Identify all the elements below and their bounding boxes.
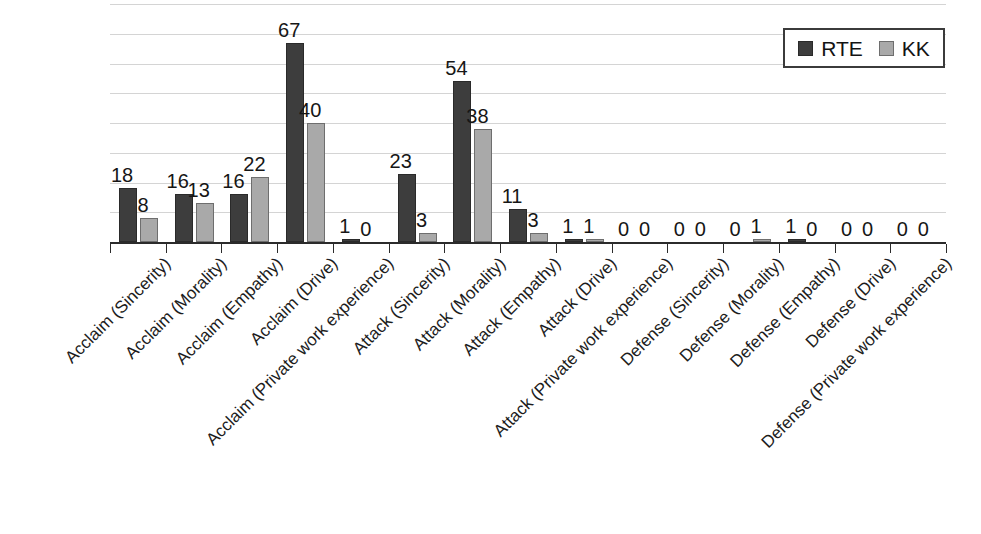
x-axis-tick bbox=[890, 244, 891, 253]
bar-group: 1613 bbox=[166, 4, 222, 242]
bar-group: 188 bbox=[110, 4, 166, 242]
x-axis-tick bbox=[500, 244, 501, 253]
bar-value-label: 1 bbox=[574, 216, 604, 236]
bar-rte bbox=[175, 194, 193, 242]
bar-value-label: 38 bbox=[462, 106, 492, 126]
bar-group: 11 bbox=[556, 4, 612, 242]
bar-kk bbox=[251, 177, 269, 242]
bar-kk bbox=[474, 129, 492, 242]
bar-group: 233 bbox=[389, 4, 445, 242]
bar-group: 113 bbox=[500, 4, 556, 242]
bar-rte bbox=[398, 174, 416, 242]
bar-group: 00 bbox=[612, 4, 668, 242]
bar-kk bbox=[530, 233, 548, 242]
bar-value-label: 23 bbox=[386, 151, 416, 171]
bar-value-label: 22 bbox=[239, 154, 269, 174]
x-axis-tick bbox=[556, 244, 557, 253]
bar-kk bbox=[196, 203, 214, 242]
x-axis-tick bbox=[389, 244, 390, 253]
bar-value-label: 3 bbox=[407, 210, 437, 230]
legend-swatch-kk-icon bbox=[879, 41, 894, 56]
bar-rte bbox=[230, 194, 248, 242]
x-axis-tick bbox=[723, 244, 724, 253]
bar-group: 10 bbox=[333, 4, 389, 242]
bar-group: 5438 bbox=[444, 4, 500, 242]
x-axis-tick bbox=[612, 244, 613, 253]
x-axis-tick bbox=[667, 244, 668, 253]
bar-chart: 1881613162267401023354381131100000110000… bbox=[0, 0, 981, 534]
bar-value-label: 8 bbox=[128, 195, 158, 215]
bar-rte bbox=[286, 43, 304, 242]
bar-value-label: 67 bbox=[274, 20, 304, 40]
x-axis-tick bbox=[835, 244, 836, 253]
chart-legend: RTE KK bbox=[783, 28, 945, 68]
bar-value-label: 11 bbox=[497, 186, 527, 206]
legend-entry-kk: KK bbox=[879, 38, 930, 59]
x-axis-tick bbox=[444, 244, 445, 253]
bar-kk bbox=[419, 233, 437, 242]
bar-value-label: 0 bbox=[630, 219, 660, 239]
x-axis-tick bbox=[277, 244, 278, 253]
bar-value-label: 3 bbox=[518, 210, 548, 230]
x-axis-tick bbox=[221, 244, 222, 253]
bar-value-label: 0 bbox=[685, 219, 715, 239]
legend-label-kk: KK bbox=[902, 38, 930, 59]
x-axis-tick bbox=[779, 244, 780, 253]
legend-swatch-rte-icon bbox=[798, 41, 813, 56]
x-axis-tick bbox=[110, 244, 111, 253]
x-axis-tick bbox=[333, 244, 334, 253]
bar-value-label: 18 bbox=[107, 165, 137, 185]
bar-group: 6740 bbox=[277, 4, 333, 242]
legend-entry-rte: RTE bbox=[798, 38, 863, 59]
bar-value-label: 0 bbox=[908, 219, 938, 239]
bar-group: 1622 bbox=[221, 4, 277, 242]
bar-group: 01 bbox=[723, 4, 779, 242]
bar-kk bbox=[307, 123, 325, 242]
x-axis-tick bbox=[946, 244, 947, 253]
x-axis-line bbox=[110, 242, 946, 244]
bar-value-label: 54 bbox=[441, 58, 471, 78]
bar-kk bbox=[140, 218, 158, 242]
bar-value-label: 13 bbox=[184, 180, 214, 200]
bar-value-label: 0 bbox=[797, 219, 827, 239]
bar-value-label: 0 bbox=[853, 219, 883, 239]
legend-label-rte: RTE bbox=[821, 38, 863, 59]
bar-value-label: 0 bbox=[351, 219, 381, 239]
bar-group: 00 bbox=[667, 4, 723, 242]
x-axis-tick bbox=[166, 244, 167, 253]
bar-value-label: 40 bbox=[295, 100, 325, 120]
bar-value-label: 1 bbox=[741, 216, 771, 236]
